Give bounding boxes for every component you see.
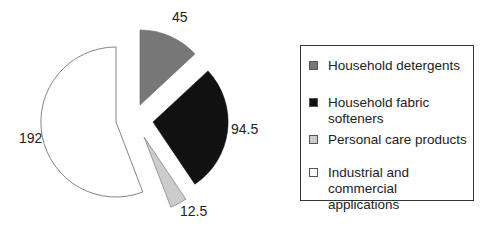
legend-swatch	[309, 168, 318, 177]
slice-industrial-commercial	[41, 47, 143, 197]
legend-label: Personal care products	[328, 132, 478, 148]
legend-label: Industrial and commercial applications	[328, 165, 468, 213]
data-label-industrial: 192	[19, 130, 42, 146]
legend-label: Household detergents	[328, 58, 478, 74]
data-label-detergents: 45	[172, 9, 188, 25]
legend-label: Household fabric softeners	[328, 95, 438, 127]
pie-chart	[0, 0, 260, 231]
data-label-softeners: 94.5	[231, 121, 258, 137]
legend-swatch	[309, 98, 318, 107]
legend-swatch	[309, 61, 318, 70]
legend-swatch	[309, 135, 318, 144]
legend: Household detergents Household fabric so…	[300, 45, 474, 201]
data-label-personal-care: 12.5	[180, 203, 207, 219]
